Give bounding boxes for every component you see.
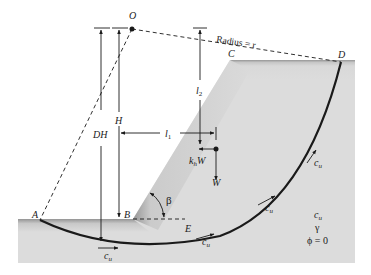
label-beta: β [166,194,172,206]
label-a: A [31,209,39,220]
prop-gamma: γ [314,222,320,233]
label-dh: DH [92,129,108,140]
label-l2: l2 [196,85,203,98]
centroid-point [214,147,219,152]
label-c: C [228,48,235,59]
slope-stability-diagram: O A B C D E Radius = r H DH l1 l2 khW W … [0,0,371,275]
label-radius: Radius = r [216,34,258,50]
center-point-o [130,27,135,32]
label-e: E [184,223,191,234]
label-l1: l1 [165,128,172,141]
label-d: D [337,49,346,60]
label-o: O [129,10,136,21]
label-b: B [124,209,130,220]
label-h: H [114,115,123,126]
prop-phi: ϕ = 0 [307,235,328,246]
